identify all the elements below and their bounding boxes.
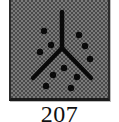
dot <box>43 83 49 89</box>
scattered-dots <box>37 28 93 91</box>
dot <box>61 65 67 71</box>
dot <box>50 72 56 78</box>
pattern-tile <box>9 0 110 101</box>
dot <box>76 32 82 38</box>
dot <box>41 28 47 34</box>
fork-with-dots-icon <box>11 0 108 98</box>
dot <box>68 85 74 91</box>
dot <box>74 74 80 80</box>
dot <box>37 49 43 55</box>
tile-number-label: 207 <box>0 102 119 122</box>
dot <box>87 56 93 62</box>
dot <box>82 43 88 49</box>
dot <box>48 42 54 48</box>
fork-right-arm <box>62 48 91 78</box>
